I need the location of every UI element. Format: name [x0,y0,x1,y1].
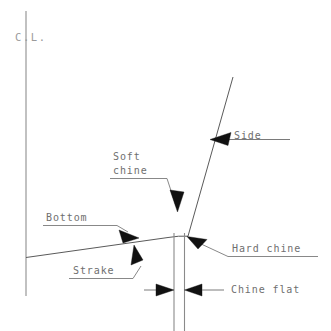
centerline-label: C.L. [15,31,47,43]
chine-flat-arrowhead-left [156,284,174,296]
soft-chine-label-line1: Soft [113,151,141,162]
soft-chine-arrowhead [170,190,184,212]
chine-flat-label: Chine flat [231,284,300,295]
soft-chine-label-line2: chine [113,165,148,176]
chine-flat-arrowhead-right [185,284,203,296]
hard-chine-label: Hard chine [232,243,301,254]
side-label: Side [234,130,262,141]
diagram-canvas: Side Soft chine Bottom Strake Hard chine… [0,0,331,331]
bottom-panel-line [26,238,168,258]
hard-chine-arrowhead [187,237,207,250]
strake-arrowhead [131,245,143,265]
side-arrowhead [210,133,231,146]
strake-label: Strake [73,265,115,276]
chine-detail-diagram: Side Soft chine Bottom Strake Hard chine… [0,0,331,331]
bottom-label: Bottom [46,212,88,223]
bottom-leader-line [43,226,128,233]
soft-chine-leader-line [110,179,176,207]
bottom-arrowhead [119,230,139,243]
side-panel-line [188,77,233,236]
